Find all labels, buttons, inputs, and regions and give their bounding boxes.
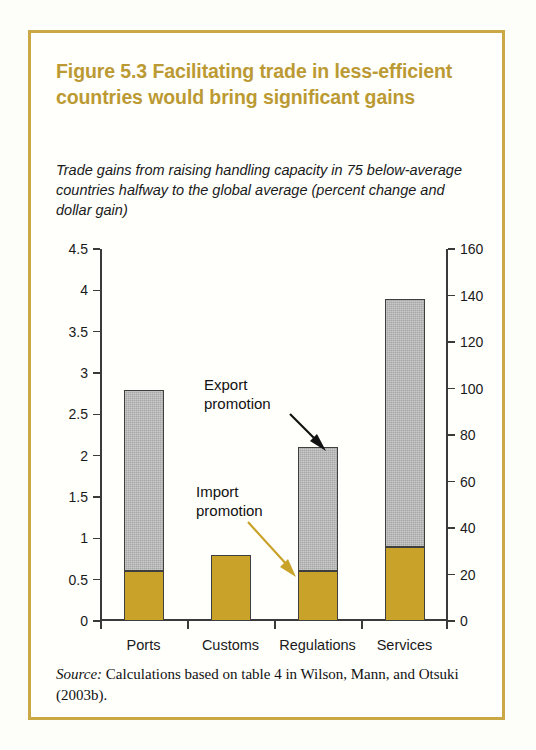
right-axis-tick-label: 0: [460, 614, 468, 628]
left-axis-tick-label: 4: [80, 283, 88, 297]
right-axis-tick-label: 40: [460, 521, 476, 535]
bar-ports[interactable]: [124, 249, 164, 621]
annotation-import-promotion: Import promotion: [196, 482, 263, 520]
left-axis-tick: [93, 455, 100, 457]
figure-container: Figure 5.3 Facilitating trade in less-ef…: [0, 0, 536, 750]
left-axis-tick-label: 2: [80, 449, 88, 463]
left-axis-tick: [93, 248, 100, 250]
left-axis-tick: [93, 372, 100, 374]
bar-segment-export-promotion[interactable]: [124, 390, 164, 572]
right-axis-tick: [448, 434, 455, 436]
x-axis-label-services: Services: [377, 637, 433, 653]
left-axis-tick: [93, 538, 100, 540]
bar-segment-import-promotion[interactable]: [385, 547, 425, 621]
left-axis-tick: [93, 331, 100, 333]
right-axis-tick-label: 120: [460, 335, 483, 349]
source-label: Source:: [56, 666, 102, 682]
left-axis-tick: [93, 496, 100, 498]
left-axis-tick-label: 0.5: [69, 573, 88, 587]
x-axis-label-customs: Customs: [202, 637, 259, 653]
x-axis-label-ports: Ports: [127, 637, 161, 653]
left-axis-tick-label: 3.5: [69, 325, 88, 339]
right-axis-tick-label: 160: [460, 242, 483, 256]
right-axis-tick-label: 140: [460, 289, 483, 303]
figure-subtitle: Trade gains from raising handling capaci…: [56, 160, 476, 220]
x-axis-tick: [100, 621, 102, 629]
bar-customs[interactable]: [211, 249, 251, 621]
left-axis-tick-label: 3: [80, 366, 88, 380]
right-axis-tick-label: 100: [460, 382, 483, 396]
import-promotion-arrow-icon: [246, 520, 306, 582]
right-axis-tick: [448, 481, 455, 483]
left-axis-line: [100, 249, 102, 621]
left-axis-tick: [93, 414, 100, 416]
left-axis-tick-label: 0: [80, 614, 88, 628]
right-axis-tick-label: 80: [460, 428, 476, 442]
right-axis-tick: [448, 388, 455, 390]
x-axis-tick: [361, 621, 363, 629]
left-axis-tick-label: 2.5: [69, 407, 88, 421]
x-axis-tick: [187, 621, 189, 629]
bar-services[interactable]: [385, 249, 425, 621]
bar-segment-import-promotion[interactable]: [124, 571, 164, 621]
x-axis-tick: [274, 621, 276, 629]
bar-segment-export-promotion[interactable]: [385, 299, 425, 547]
left-axis-tick: [93, 290, 100, 292]
bar-segment-import-promotion[interactable]: [211, 555, 251, 621]
export-promotion-arrow-icon: [288, 412, 334, 454]
right-axis-tick-label: 20: [460, 568, 476, 582]
x-axis-tick: [446, 621, 448, 629]
right-axis-tick: [448, 620, 455, 622]
left-axis-tick: [93, 579, 100, 581]
annotation-export-promotion: Export promotion: [204, 375, 271, 413]
left-axis-tick-label: 1.5: [69, 490, 88, 504]
left-axis-tick-label: 4.5: [69, 242, 88, 256]
right-axis-tick-label: 60: [460, 475, 476, 489]
right-axis-tick: [448, 527, 455, 529]
source-body: Calculations based on table 4 in Wilson,…: [56, 666, 459, 703]
left-axis-tick: [93, 620, 100, 622]
source-note: Source: Calculations based on table 4 in…: [56, 664, 476, 705]
left-axis-tick-label: 1: [80, 531, 88, 545]
right-axis-tick: [448, 295, 455, 297]
right-axis-tick: [448, 248, 455, 250]
figure-title: Figure 5.3 Facilitating trade in less-ef…: [56, 58, 466, 110]
right-axis-tick: [448, 574, 455, 576]
right-axis-tick: [448, 341, 455, 343]
x-axis-label-regulations: Regulations: [279, 637, 356, 653]
